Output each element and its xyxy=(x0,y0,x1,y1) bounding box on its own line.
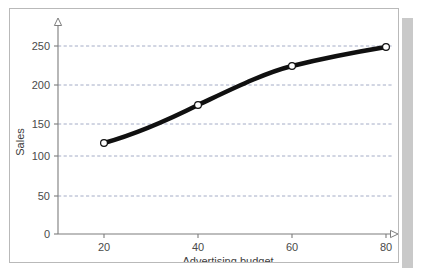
gridlines xyxy=(58,46,394,196)
data-series-sales xyxy=(101,44,390,147)
x-tick-label-80: 80 xyxy=(380,241,392,253)
x-axis-title: Advertising budget xyxy=(182,255,273,262)
data-point-marker[interactable] xyxy=(101,140,108,147)
y-axis: 250 200 150 100 50 0 Sales xyxy=(14,18,62,240)
x-axis-arrow-icon xyxy=(391,230,399,237)
x-tick-label-60: 60 xyxy=(286,241,298,253)
data-point-marker[interactable] xyxy=(383,44,390,51)
x-axis: 20 40 60 80 xyxy=(58,230,398,253)
y-tick-label-250: 250 xyxy=(32,40,50,52)
y-tick-label-200: 200 xyxy=(32,79,50,91)
line-chart: 250 200 150 100 50 0 Sales 20 40 60 80 xyxy=(10,9,398,262)
y-axis-arrow-icon xyxy=(54,18,61,26)
x-tick-label-40: 40 xyxy=(192,241,204,253)
y-axis-title: Sales xyxy=(14,128,26,156)
y-tick-label-150: 150 xyxy=(32,118,50,130)
x-tick-label-20: 20 xyxy=(98,241,110,253)
figure-drop-shadow xyxy=(402,18,413,268)
data-point-marker[interactable] xyxy=(195,102,202,109)
figure-frame: 250 200 150 100 50 0 Sales 20 40 60 80 xyxy=(9,8,399,263)
y-tick-label-0: 0 xyxy=(44,228,50,240)
y-tick-label-100: 100 xyxy=(32,150,50,162)
y-tick-label-50: 50 xyxy=(38,190,50,202)
data-point-marker[interactable] xyxy=(289,63,296,70)
series-line-sales xyxy=(104,47,386,143)
